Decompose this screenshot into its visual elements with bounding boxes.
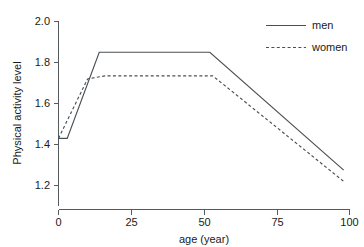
y-axis: 2.0 1.8 1.6 1.4 1.2 Physical activity le…: [11, 15, 59, 206]
y-tick-label-3: 1.8: [35, 56, 50, 68]
y-tick-label-1: 1.4: [35, 138, 50, 150]
series-line-men: [59, 52, 344, 170]
data-series-group: [59, 52, 344, 181]
x-axis-title: age (year): [179, 233, 229, 245]
legend-label-men: men: [312, 19, 333, 31]
x-tick-label-1: 25: [125, 216, 137, 228]
x-tick-label-2: 50: [198, 216, 210, 228]
x-axis: 0 25 50 75 100 age (year): [55, 210, 358, 246]
legend-label-women: women: [311, 41, 347, 53]
y-tick-label-0: 1.2: [35, 179, 50, 191]
x-tick-label-0: 0: [55, 216, 61, 228]
x-tick-label-3: 75: [271, 216, 283, 228]
line-chart: 2.0 1.8 1.6 1.4 1.2 Physical activity le…: [0, 0, 364, 247]
x-tick-label-4: 100: [340, 216, 358, 228]
legend: men women: [266, 19, 347, 53]
y-axis-title: Physical activity level: [11, 61, 23, 164]
series-line-women: [59, 76, 344, 182]
y-tick-label-4: 2.0: [35, 15, 50, 27]
figure-container: 2.0 1.8 1.6 1.4 1.2 Physical activity le…: [0, 0, 364, 247]
y-tick-label-2: 1.6: [35, 97, 50, 109]
